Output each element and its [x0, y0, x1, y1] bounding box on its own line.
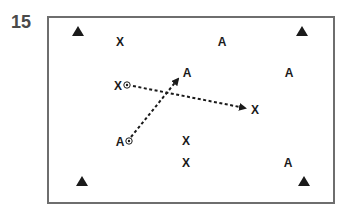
player-x-marker: X: [114, 80, 122, 92]
run-arrows: [131, 79, 245, 137]
player-a-marker: A: [285, 67, 294, 79]
cone-icon: [72, 26, 84, 36]
player-a-marker: A: [284, 157, 293, 169]
ball-center: [128, 140, 130, 142]
balls: [124, 82, 132, 144]
player-a-marker: A: [218, 36, 227, 48]
drill-diagram-overlay: [0, 0, 347, 212]
run-arrow: [133, 86, 245, 108]
player-a-marker: A: [183, 67, 192, 79]
cone-icon: [296, 26, 308, 36]
run-arrow: [131, 79, 178, 137]
player-x-marker: X: [251, 104, 259, 116]
cone-icon: [76, 176, 88, 186]
player-x-marker: X: [116, 36, 124, 48]
player-x-marker: X: [182, 135, 190, 147]
player-x-marker: X: [182, 157, 190, 169]
ball-center: [126, 84, 128, 86]
player-a-marker: A: [116, 136, 125, 148]
cone-icon: [298, 176, 310, 186]
cones: [72, 26, 310, 186]
